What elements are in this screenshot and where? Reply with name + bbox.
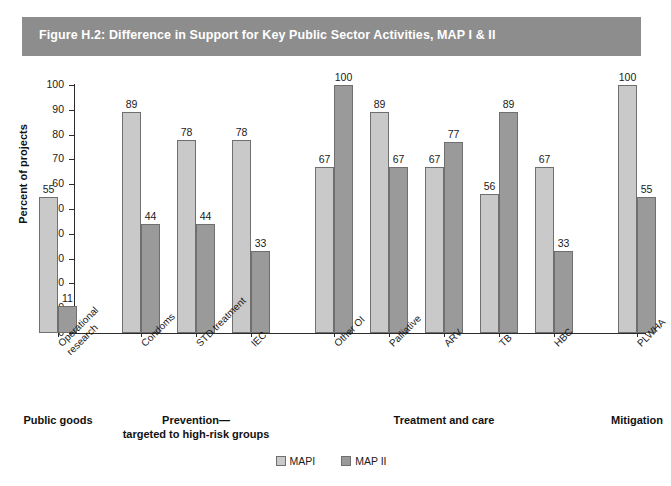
x-axis-tick bbox=[389, 333, 390, 337]
bar-value-label: 77 bbox=[438, 128, 469, 140]
chart-legend: MAPIMAP II bbox=[0, 455, 662, 467]
x-axis-tick bbox=[251, 333, 252, 337]
bar-value-label: 56 bbox=[474, 180, 505, 192]
x-axis-tick bbox=[554, 333, 555, 337]
group-label: Treatment and care bbox=[334, 413, 554, 427]
group-label: Mitigation bbox=[527, 413, 671, 427]
bar-value-label: 44 bbox=[135, 210, 166, 222]
bar-value-label: 55 bbox=[33, 183, 64, 195]
legend-label: MAPI bbox=[290, 455, 316, 467]
y-axis-tick-label: 80 bbox=[38, 129, 64, 139]
bar-value-label: 78 bbox=[226, 126, 257, 138]
x-axis-tick bbox=[637, 333, 638, 337]
x-axis-tick bbox=[334, 333, 335, 337]
x-axis-tick bbox=[196, 333, 197, 337]
bar-value-label: 89 bbox=[493, 98, 524, 110]
figure-title-band: Figure H.2: Difference in Support for Ke… bbox=[22, 17, 641, 56]
x-axis-tick bbox=[499, 333, 500, 337]
group-label: Prevention— targeted to high-risk groups bbox=[86, 413, 306, 441]
legend-label: MAP II bbox=[355, 455, 386, 467]
bar-value-label: 33 bbox=[245, 237, 276, 249]
bar-value-label: 100 bbox=[612, 71, 643, 83]
legend-item[interactable]: MAP II bbox=[341, 455, 386, 467]
y-axis-tick-label: 100 bbox=[38, 79, 64, 89]
legend-swatch bbox=[341, 456, 351, 466]
bar-value-label: 67 bbox=[383, 153, 414, 165]
bar bbox=[389, 167, 408, 333]
bar-value-label: 55 bbox=[631, 183, 662, 195]
bar-value-label: 89 bbox=[364, 98, 395, 110]
bar-value-label: 33 bbox=[548, 237, 579, 249]
bar bbox=[334, 85, 353, 333]
x-axis-tick bbox=[444, 333, 445, 337]
y-axis-tick-label: 70 bbox=[38, 153, 64, 163]
bar-value-label: 11 bbox=[52, 292, 83, 304]
bar-value-label: 100 bbox=[328, 71, 359, 83]
bar bbox=[39, 197, 58, 333]
bar-value-label: 67 bbox=[309, 153, 340, 165]
legend-swatch bbox=[276, 456, 286, 466]
bar-value-label: 67 bbox=[529, 153, 560, 165]
y-axis-title: Percent of projects bbox=[17, 94, 29, 254]
bar-value-label: 78 bbox=[171, 126, 202, 138]
legend-item[interactable]: MAPI bbox=[276, 455, 316, 467]
bar-value-label: 67 bbox=[419, 153, 450, 165]
bar-value-label: 89 bbox=[116, 98, 147, 110]
bar bbox=[444, 142, 463, 333]
bar bbox=[315, 167, 334, 333]
bar bbox=[499, 112, 518, 333]
bar-value-label: 44 bbox=[190, 210, 221, 222]
x-axis-tick bbox=[141, 333, 142, 337]
figure-title: Figure H.2: Difference in Support for Ke… bbox=[39, 28, 496, 42]
y-axis-tick-label: 90 bbox=[38, 104, 64, 114]
bar bbox=[618, 85, 637, 333]
x-axis-tick bbox=[58, 333, 59, 337]
